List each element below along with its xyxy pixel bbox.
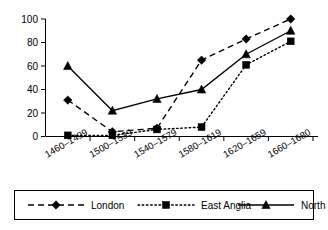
x-tick-label: 1580–1619 — [176, 126, 223, 159]
chart-container: 020406080100 1460–14991500–15391540–1579… — [0, 0, 328, 230]
series-east-anglia — [64, 38, 294, 139]
data-point-square — [154, 126, 161, 133]
y-tick-label: 0 — [32, 131, 38, 142]
series-line — [68, 41, 291, 135]
data-point-square — [109, 132, 116, 139]
y-tick-label: 60 — [27, 61, 39, 72]
y-tick-label: 80 — [27, 37, 39, 48]
y-tick-label: 40 — [27, 84, 39, 95]
series-group — [64, 15, 295, 139]
x-tick-label: 1660–1680 — [266, 126, 313, 159]
x-tick-label: 1620–1659 — [221, 126, 268, 159]
data-point-square — [198, 124, 205, 131]
data-point-triangle — [197, 85, 205, 93]
data-point-triangle — [242, 50, 250, 58]
series-london — [64, 15, 295, 136]
data-point-diamond — [287, 15, 295, 23]
data-point-triangle — [64, 62, 72, 70]
series-line — [68, 19, 291, 132]
data-point-diamond — [242, 35, 250, 43]
line-chart: 020406080100 1460–14991500–15391540–1579… — [0, 0, 328, 230]
x-axis: 1460–14991500–15391540–15791580–16191620… — [43, 126, 318, 159]
data-point-square — [287, 38, 294, 45]
data-point-square — [64, 132, 71, 139]
legend-label: London — [91, 200, 124, 211]
data-point-square — [163, 202, 170, 209]
legend: LondonEast AngliaNorth — [15, 191, 326, 220]
series-north — [64, 26, 295, 114]
legend-label: North — [301, 200, 325, 211]
y-tick-label: 100 — [21, 14, 38, 25]
y-tick-label: 20 — [27, 108, 39, 119]
series-line — [68, 31, 291, 111]
data-point-square — [243, 61, 250, 68]
x-tick-label: 1460–1499 — [43, 126, 90, 159]
x-tick-group: 1460–14991500–15391540–15791580–16191620… — [43, 126, 313, 159]
y-axis: 020406080100 — [21, 14, 45, 143]
data-point-triangle — [287, 26, 295, 34]
y-tick-group: 020406080100 — [21, 14, 45, 143]
data-point-diamond — [197, 56, 205, 64]
